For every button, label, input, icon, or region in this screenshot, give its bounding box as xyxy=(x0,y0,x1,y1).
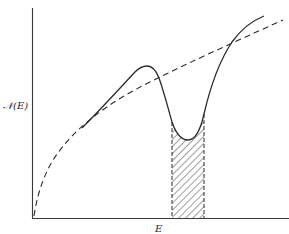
dashed-free-electron-curve xyxy=(34,20,283,216)
hatched-energy-band xyxy=(172,100,204,218)
density-of-states-figure: 𝒩(E) E xyxy=(0,0,289,234)
x-axis-label: E xyxy=(155,224,162,234)
y-axis-label: 𝒩(E) xyxy=(3,101,28,111)
solid-density-curve xyxy=(82,16,264,140)
diagram-canvas xyxy=(0,0,289,234)
